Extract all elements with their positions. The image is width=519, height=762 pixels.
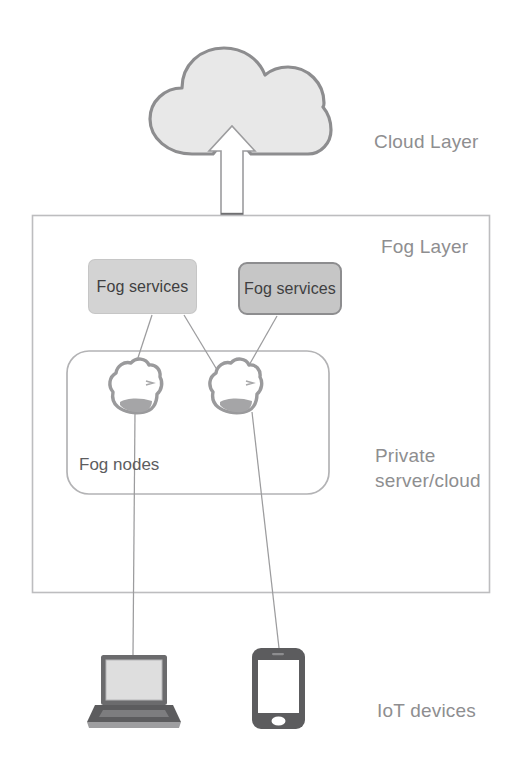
- phone-home-button: [272, 716, 286, 725]
- fog-node-right: [210, 359, 262, 413]
- phone-screen: [258, 660, 299, 713]
- fog-node-left: [110, 359, 162, 413]
- fog-services-label-left: Fog services: [97, 278, 189, 296]
- laptop-icon: [87, 655, 181, 728]
- laptop-screen: [106, 660, 162, 700]
- fog-services-box-right[interactable]: Fog services: [238, 262, 342, 315]
- fog-nodes-label: Fog nodes: [79, 455, 159, 475]
- fog-services-box-left[interactable]: Fog services: [88, 259, 197, 314]
- laptop-keys: [99, 710, 169, 717]
- fog-services-label-right: Fog services: [244, 280, 336, 298]
- smartphone-icon: [252, 648, 305, 729]
- diagram-canvas: Fog services Fog services Cloud Layer Fo…: [0, 0, 519, 762]
- diagram-vector-layer: [0, 0, 519, 762]
- connector-nodeleft-laptop: [133, 412, 135, 655]
- phone-speaker: [272, 653, 284, 655]
- iot-devices-label: IoT devices: [377, 698, 476, 723]
- private-server-cloud-label: Private server/cloud: [375, 443, 481, 493]
- fog-layer-label: Fog Layer: [381, 234, 468, 259]
- cloud-layer-label: Cloud Layer: [374, 129, 479, 154]
- connector-noderight-phone: [252, 412, 279, 648]
- laptop-front-lip: [87, 722, 181, 728]
